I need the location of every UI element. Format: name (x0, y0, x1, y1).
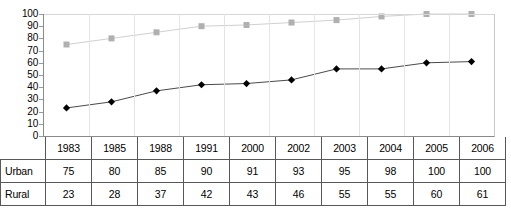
table-year-header-2005: 2005 (414, 137, 460, 160)
table-year-header-2002: 2002 (276, 137, 322, 160)
y-axis-dash (39, 112, 43, 113)
table-year-header-2004: 2004 (368, 137, 414, 160)
table-year-header-2003: 2003 (322, 137, 368, 160)
y-axis-tick-80: 80 (0, 33, 38, 43)
table-cell-urban-1991: 90 (184, 160, 230, 183)
table-cell-rural-2002: 46 (276, 183, 322, 206)
marker-urban-2000 (244, 22, 250, 28)
column-separator (359, 14, 360, 136)
table-cell-rural-1988: 37 (138, 183, 184, 206)
column-separator (269, 14, 270, 136)
y-axis-dash (39, 14, 43, 15)
table-cell-urban-2000: 91 (230, 160, 276, 183)
y-axis-tick-70: 70 (0, 46, 38, 56)
y-axis-dash (39, 75, 43, 76)
y-axis-tick-10: 10 (0, 119, 38, 129)
y-axis-dash (39, 38, 43, 39)
marker-rural-1983 (63, 104, 70, 111)
table-year-header-1991: 1991 (184, 137, 230, 160)
table-cell-urban-1983: 75 (46, 160, 92, 183)
y-axis-dash (39, 124, 43, 125)
table-cell-urban-2002: 93 (276, 160, 322, 183)
column-separator (449, 14, 450, 136)
marker-rural-1985 (108, 98, 115, 105)
y-axis-dash (39, 63, 43, 64)
marker-urban-1985 (109, 35, 115, 41)
column-separator (404, 14, 405, 136)
marker-rural-1988 (153, 87, 160, 94)
table-year-header-1985: 1985 (92, 137, 138, 160)
marker-rural-2006 (468, 58, 475, 65)
table-row-label-urban: Urban (1, 160, 46, 183)
plot-area (43, 14, 495, 137)
marker-rural-2004 (378, 65, 385, 72)
marker-urban-1983 (64, 42, 70, 48)
table-cell-rural-1983: 23 (46, 183, 92, 206)
table-year-header-1988: 1988 (138, 137, 184, 160)
table-year-header-2006: 2006 (460, 137, 506, 160)
table-cell-rural-2004: 55 (368, 183, 414, 206)
column-separator (134, 14, 135, 136)
y-axis-dash (39, 87, 43, 88)
table-header-row: 1983198519881991200020022003200420052006 (1, 137, 506, 160)
marker-urban-2003 (334, 17, 340, 23)
table-cell-rural-2003: 55 (322, 183, 368, 206)
table-cell-urban-2005: 100 (414, 160, 460, 183)
table-cell-rural-1991: 42 (184, 183, 230, 206)
y-axis-tick-50: 50 (0, 70, 38, 80)
y-axis-tick-20: 20 (0, 107, 38, 117)
table-row: Rural23283742434655556061 (1, 183, 506, 206)
column-separator (179, 14, 180, 136)
table-cell-urban-1985: 80 (92, 160, 138, 183)
table-year-header-1983: 1983 (46, 137, 92, 160)
y-axis-dash (39, 26, 43, 27)
y-axis-dash (39, 99, 43, 100)
chart-with-data-table: 1009080706050403020100 19831985198819912… (0, 0, 511, 212)
y-axis-tick-30: 30 (0, 94, 38, 104)
values-table: 1983198519881991200020022003200420052006… (0, 137, 506, 206)
column-separator (314, 14, 315, 136)
marker-urban-1988 (154, 29, 160, 35)
table-cell-urban-1988: 85 (138, 160, 184, 183)
column-separator (89, 14, 90, 136)
table-cell-urban-2006: 100 (460, 160, 506, 183)
marker-rural-1991 (198, 81, 205, 88)
marker-urban-1991 (199, 23, 205, 29)
table-row-label-rural: Rural (1, 183, 46, 206)
marker-rural-2003 (333, 65, 340, 72)
y-axis-tick-40: 40 (0, 82, 38, 92)
table-row: Urban7580859091939598100100 (1, 160, 506, 183)
table-cell-rural-2005: 60 (414, 183, 460, 206)
marker-rural-2000 (243, 80, 250, 87)
data-table: 1983198519881991200020022003200420052006… (0, 137, 511, 212)
y-axis-tick-100: 100 (0, 9, 38, 19)
table-cell-rural-2000: 43 (230, 183, 276, 206)
table-corner-cell (1, 137, 46, 160)
table-cell-urban-2003: 95 (322, 160, 368, 183)
table-cell-urban-2004: 98 (368, 160, 414, 183)
marker-urban-2002 (289, 20, 295, 26)
y-axis-tick-60: 60 (0, 58, 38, 68)
y-axis-dash (39, 51, 43, 52)
y-axis-tick-90: 90 (0, 21, 38, 31)
table-cell-rural-2006: 61 (460, 183, 506, 206)
marker-rural-2002 (288, 76, 295, 83)
column-separator (224, 14, 225, 136)
line-chart: 1009080706050403020100 (0, 0, 511, 137)
table-year-header-2000: 2000 (230, 137, 276, 160)
table-cell-rural-1985: 28 (92, 183, 138, 206)
marker-rural-2005 (423, 59, 430, 66)
